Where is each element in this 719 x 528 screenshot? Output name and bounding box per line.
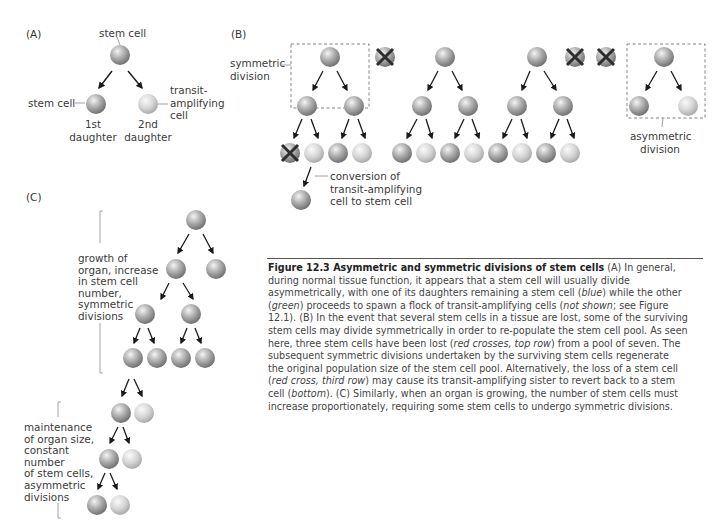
caption-text: ; see Figure [613, 300, 668, 311]
stem-cell [123, 348, 143, 368]
stem-cell [87, 495, 107, 515]
caption-text: bottom [291, 388, 326, 399]
caption-text: ) while the other [602, 287, 681, 298]
caption-text: (A) In general, [604, 262, 676, 273]
caption-text: here, three stem cells have been lost ( [268, 338, 453, 349]
lost-stem-cell [596, 47, 616, 67]
caption-text: stem cells may divide symmetrically in o… [268, 325, 688, 336]
transit-amplifying-cell [110, 495, 130, 515]
stem-cell [186, 210, 206, 230]
stem-cell [412, 96, 432, 116]
stem-cell [458, 96, 478, 116]
transit-amplifying-cell [134, 403, 154, 423]
caption-text: 12.1). (B) In the event that several ste… [268, 312, 688, 323]
caption-line: Figure 12.3 Asymmetric and symmetric div… [268, 262, 708, 275]
stem-cell [440, 143, 460, 163]
caption-line: the original population size of the stem… [268, 363, 708, 376]
stem-cell [166, 259, 186, 279]
transit-amplifying-cell [138, 94, 158, 114]
caption-line: stem cells may divide symmetrically in o… [268, 325, 708, 338]
panel-a-graphics [75, 37, 168, 114]
caption-text: red crosses, top row [453, 338, 551, 349]
transit-amplifying-cell [678, 96, 698, 116]
caption-text: asymmetrically, with one of its daughter… [268, 287, 582, 298]
caption-text: green [272, 300, 300, 311]
stem-cell [488, 143, 508, 163]
caption-text: ). (C) Similarly, when an organ is growi… [326, 388, 678, 399]
caption-line: here, three stem cells have been lost (r… [268, 338, 708, 351]
figure-caption: Figure 12.3 Asymmetric and symmetric div… [268, 262, 708, 413]
transit-amplifying-cell [464, 143, 484, 163]
caption-divider [267, 258, 703, 259]
stem-cell [629, 96, 649, 116]
caption-line: subsequent symmetric divisions undertake… [268, 350, 708, 363]
caption-text: ) may cause its transit-amplifying siste… [365, 375, 675, 386]
stem-cell [527, 47, 547, 67]
stem-cell [195, 348, 215, 368]
stem-cell [297, 96, 317, 116]
caption-text: the original population size of the stem… [268, 363, 678, 374]
caption-line: asymmetrically, with one of its daughter… [268, 287, 708, 300]
stem-cell [435, 47, 455, 67]
transit-amplifying-cell [304, 143, 324, 163]
stem-cell [171, 348, 191, 368]
caption-line: cell (bottom). (C) Similarly, when an or… [268, 388, 708, 401]
transit-amplifying-cell [122, 449, 142, 469]
caption-line: 12.1). (B) In the event that several ste… [268, 312, 708, 325]
transit-amplifying-cell [416, 143, 436, 163]
stem-cell [344, 96, 364, 116]
lost-stem-cell [565, 47, 585, 67]
panel-b-graphics [280, 44, 705, 210]
transit-amplifying-cell [560, 143, 580, 163]
caption-line: (red cross, third row) may cause its tra… [268, 375, 708, 388]
transit-amplifying-cell [352, 143, 372, 163]
converted-stem-cell [291, 190, 311, 210]
stem-cell [654, 47, 674, 67]
stem-cell [111, 403, 131, 423]
caption-line: increase proportionately, requiring some… [268, 401, 708, 414]
caption-line: during normal tissue function, it appear… [268, 275, 708, 288]
stem-cell [553, 96, 573, 116]
stem-cell [135, 304, 155, 324]
stem-cell [206, 259, 226, 279]
caption-text: not shown [563, 300, 613, 311]
panel-c-graphics [58, 210, 226, 518]
stem-cell [110, 45, 130, 65]
caption-text: cell ( [268, 388, 291, 399]
transit-amplifying-cell [512, 143, 532, 163]
caption-text: ) from a pool of seven. The [551, 338, 680, 349]
stem-cell [536, 143, 556, 163]
caption-text: ) proceeds to spawn a flock of transit-a… [300, 300, 564, 311]
stem-cell [181, 304, 201, 324]
caption-title: Figure 12.3 Asymmetric and symmetric div… [268, 262, 604, 273]
caption-text: during normal tissue function, it appear… [268, 275, 630, 286]
stem-cell [507, 96, 527, 116]
stem-cell [147, 348, 167, 368]
caption-text: red cross, third row [272, 375, 365, 386]
lost-stem-cell [375, 47, 395, 67]
caption-text: increase proportionately, requiring some… [268, 401, 673, 412]
stem-cell [328, 143, 348, 163]
caption-text: subsequent symmetric divisions undertake… [268, 350, 669, 361]
stem-cell [320, 47, 340, 67]
caption-text: blue [582, 287, 603, 298]
lost-stem-cell [280, 143, 300, 163]
caption-line: (green) proceeds to spawn a flock of tra… [268, 300, 708, 313]
stem-cell [86, 94, 106, 114]
stem-cell [99, 449, 119, 469]
stem-cell [392, 143, 412, 163]
